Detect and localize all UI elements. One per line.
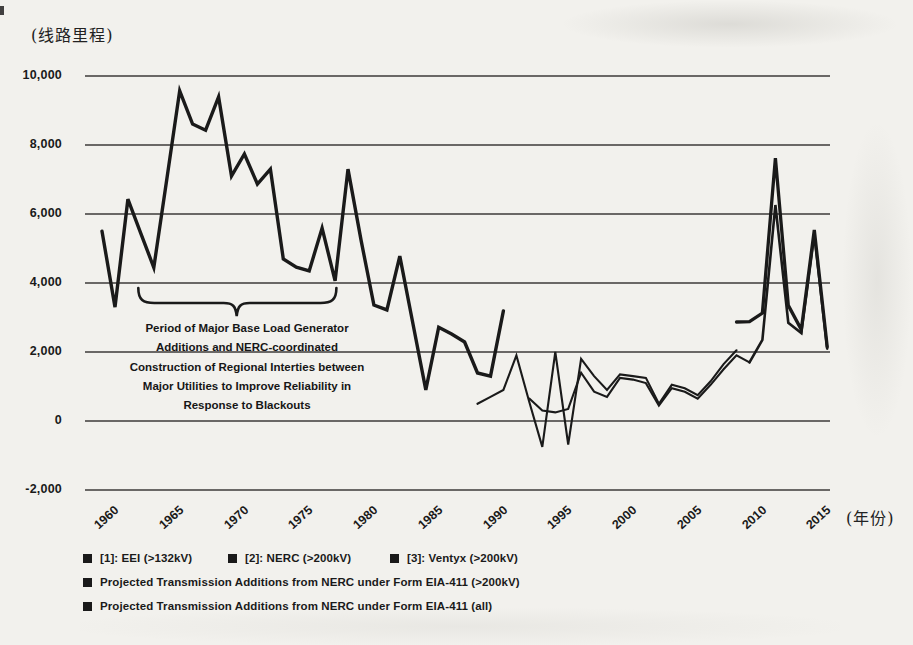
chart-annotation: Period of Major Base Load GeneratorAddit…	[100, 319, 394, 415]
legend-item-label: [2]: NERC (>200kV)	[245, 552, 351, 564]
y-tick-label: 0	[0, 413, 62, 429]
y-tick-label: 8,000	[0, 137, 62, 153]
y-tick-label: 10,000	[0, 68, 62, 84]
annotation-line: Major Utilities to Improve Reliability i…	[100, 377, 394, 396]
annotation-line: Response to Blackouts	[100, 396, 394, 415]
legend-item-label: Projected Transmission Additions from NE…	[100, 576, 520, 588]
annotation-line: Additions and NERC-coordinated	[100, 338, 394, 357]
annotation-line: Period of Major Base Load Generator	[100, 319, 394, 338]
legend-square-marker-icon	[83, 554, 92, 563]
series-proj200-line	[750, 205, 828, 362]
scanned-chart-page: (线路里程) 10,0008,0006,0004,0002,0000-2,000…	[0, 0, 913, 645]
y-tick-label: 4,000	[0, 275, 62, 291]
y-tick-label: 2,000	[0, 344, 62, 360]
legend-square-marker-icon	[83, 602, 92, 611]
annotation-line: Construction of Regional Interties betwe…	[100, 358, 394, 377]
legend-square-marker-icon	[228, 554, 237, 563]
gridlines	[85, 76, 830, 490]
legend-item-label: [1]: EEI (>132kV)	[100, 552, 192, 564]
legend-item-label: Projected Transmission Additions from NE…	[100, 600, 492, 612]
legend-item: Projected Transmission Additions from NE…	[83, 600, 492, 612]
legend-square-marker-icon	[390, 554, 399, 563]
legend-item: [2]: NERC (>200kV)	[228, 552, 351, 564]
legend-item: Projected Transmission Additions from NE…	[83, 576, 520, 588]
period-brace	[138, 288, 336, 316]
x-axis-unit-label: (年份)	[846, 505, 894, 529]
y-tick-label: -2,000	[0, 482, 62, 498]
legend-square-marker-icon	[83, 578, 92, 587]
legend-item: [1]: EEI (>132kV)	[83, 552, 192, 564]
legend-item: [3]: Ventyx (>200kV)	[390, 552, 518, 564]
y-tick-label: 6,000	[0, 206, 62, 222]
legend-item-label: [3]: Ventyx (>200kV)	[407, 552, 518, 564]
